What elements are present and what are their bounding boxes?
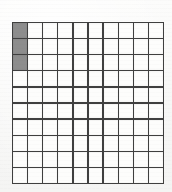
hundredths-grid [12,22,164,184]
grid-cell [43,23,57,38]
grid-cell [104,168,118,183]
grid-cell [134,88,148,103]
grid-cell [74,39,88,54]
grid-cell [28,23,42,38]
grid-cell [104,152,118,167]
grid-cell [13,168,27,183]
grid-cell [119,39,133,54]
grid-cell [119,152,133,167]
grid-cell [119,104,133,119]
grid-cell [58,136,72,151]
grid-cell [149,71,163,86]
grid-cell [119,55,133,70]
grid-cell [13,55,27,70]
grid-cell [149,88,163,103]
grid-cell [119,168,133,183]
grid-cell [43,152,57,167]
grid-cell [13,104,27,119]
grid-cell [28,120,42,135]
grid-cell [43,39,57,54]
grid-cell [134,55,148,70]
grid-cell [58,88,72,103]
grid-cell [134,152,148,167]
grid-cell [89,152,103,167]
grid-cell [119,136,133,151]
grid-cell [58,104,72,119]
grid-cell [134,168,148,183]
grid-cell [74,120,88,135]
grid-cell [104,71,118,86]
grid-cell [149,39,163,54]
grid-cell [119,71,133,86]
grid-cell [74,88,88,103]
grid-cell [13,136,27,151]
grid-cell [104,55,118,70]
grid-cell [149,152,163,167]
grid-cell [28,136,42,151]
grid-cell [43,88,57,103]
grid-cell [104,39,118,54]
grid-cell [58,39,72,54]
figure-canvas [0,0,172,192]
grid-cell [134,71,148,86]
grid-cell [43,168,57,183]
grid-cell [149,104,163,119]
grid-cell [134,39,148,54]
grid-cell [43,104,57,119]
grid-cell [28,152,42,167]
grid-cell [149,120,163,135]
grid-cell [28,55,42,70]
grid-cell [74,71,88,86]
grid-cell [13,39,27,54]
grid-cell [58,71,72,86]
grid-cell [43,55,57,70]
grid-cell [28,39,42,54]
grid-cell [134,136,148,151]
grid-cell [28,88,42,103]
grid-cell [74,136,88,151]
grid-cell [74,168,88,183]
grid-cell [134,120,148,135]
grid-cell [58,23,72,38]
grid-cell [13,23,27,38]
grid-cell [13,152,27,167]
grid-cell [89,104,103,119]
grid-cell [104,104,118,119]
grid-cell [89,136,103,151]
grid-cell [104,120,118,135]
grid-cell [89,23,103,38]
grid-cell [119,23,133,38]
grid-cell [58,55,72,70]
grid-cell [104,136,118,151]
grid-cell [43,71,57,86]
grid-cell [89,120,103,135]
grid-cell [43,120,57,135]
grid-cell [104,88,118,103]
grid-cell [28,104,42,119]
grid-cell [13,120,27,135]
grid-cell [149,23,163,38]
grid-cell [28,71,42,86]
grid-cell [58,168,72,183]
grid-cell [89,55,103,70]
grid-cell [104,23,118,38]
grid-cell [58,152,72,167]
grid-cell [149,168,163,183]
grid-cell [13,88,27,103]
grid-cell [13,71,27,86]
grid-cell [89,168,103,183]
grid-cell [74,152,88,167]
grid-cell [43,136,57,151]
grid-cell [89,71,103,86]
grid-cell [74,104,88,119]
grid-cell [28,168,42,183]
grid-cell [89,39,103,54]
grid-cell [74,23,88,38]
grid-cell [134,23,148,38]
grid-cell [149,136,163,151]
grid-cell [119,88,133,103]
grid-cell [134,104,148,119]
grid-cell [58,120,72,135]
grid-cell [119,120,133,135]
grid-cell [149,55,163,70]
